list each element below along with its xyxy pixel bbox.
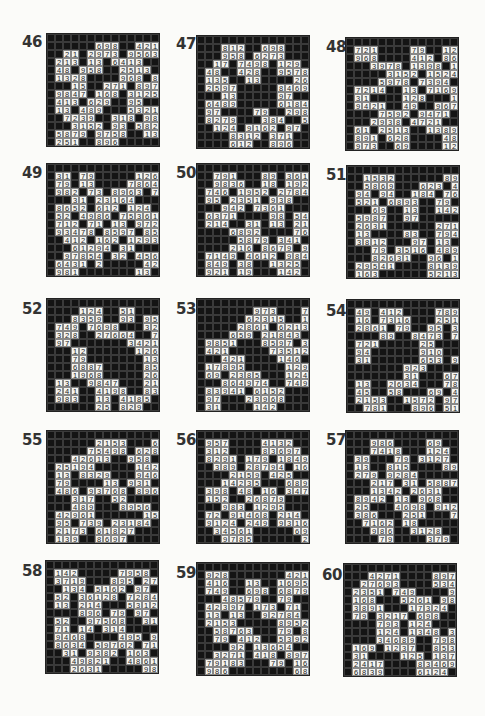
answer-cell[interactable]: 8 — [229, 132, 237, 140]
answer-cell[interactable]: 1 — [370, 487, 378, 495]
answer-cell[interactable]: 8 — [229, 595, 237, 603]
answer-cell[interactable]: 6 — [416, 596, 424, 604]
answer-cell[interactable]: 5 — [269, 339, 277, 347]
answer-cell[interactable]: 1 — [79, 260, 87, 268]
answer-cell[interactable]: 5 — [229, 52, 237, 60]
answer-cell[interactable]: 6 — [119, 331, 127, 339]
answer-cell[interactable]: 1 — [370, 46, 378, 54]
answer-cell[interactable]: 2 — [416, 620, 424, 628]
answer-cell[interactable]: 3 — [135, 58, 143, 66]
answer-cell[interactable]: 9 — [143, 114, 151, 122]
answer-cell[interactable]: 3 — [410, 527, 418, 535]
answer-cell[interactable]: 1 — [79, 244, 87, 252]
answer-cell[interactable]: 5 — [151, 228, 159, 236]
answer-cell[interactable]: 7 — [277, 132, 285, 140]
answer-cell[interactable]: 2 — [392, 644, 400, 652]
answer-cell[interactable]: 1 — [261, 487, 269, 495]
answer-cell[interactable]: 1 — [376, 604, 384, 612]
answer-cell[interactable]: 4 — [285, 355, 293, 363]
answer-cell[interactable]: 1 — [269, 220, 277, 228]
answer-cell[interactable]: 5 — [103, 403, 111, 411]
answer-cell[interactable]: 7 — [395, 324, 403, 332]
answer-cell[interactable]: 4 — [213, 188, 221, 196]
answer-cell[interactable]: 8 — [434, 62, 442, 70]
answer-cell[interactable]: 4 — [205, 603, 213, 611]
answer-cell[interactable]: 1 — [442, 46, 450, 54]
answer-cell[interactable]: 5 — [253, 371, 261, 379]
answer-cell[interactable]: 3 — [426, 487, 434, 495]
answer-cell[interactable]: 6 — [55, 260, 63, 268]
answer-cell[interactable]: 6 — [362, 54, 370, 62]
answer-cell[interactable]: 8 — [79, 363, 87, 371]
answer-cell[interactable]: 9 — [87, 379, 95, 387]
answer-cell[interactable]: 2 — [362, 46, 370, 54]
answer-cell[interactable]: 1 — [95, 236, 103, 244]
answer-cell[interactable]: 6 — [221, 579, 229, 587]
answer-cell[interactable]: 8 — [403, 230, 411, 238]
answer-cell[interactable]: 8 — [95, 66, 103, 74]
answer-cell[interactable]: 7 — [368, 580, 376, 588]
answer-cell[interactable]: 1 — [213, 220, 221, 228]
answer-cell[interactable]: 9 — [261, 108, 269, 116]
answer-cell[interactable]: 5 — [126, 577, 134, 585]
answer-cell[interactable]: 5 — [127, 212, 135, 220]
answer-cell[interactable]: 2 — [379, 254, 387, 262]
answer-cell[interactable]: 7 — [269, 52, 277, 60]
answer-cell[interactable]: 8 — [134, 657, 142, 665]
answer-cell[interactable]: 7 — [229, 84, 237, 92]
answer-cell[interactable]: 9 — [221, 172, 229, 180]
answer-cell[interactable]: 3 — [63, 106, 71, 114]
answer-cell[interactable]: 7 — [221, 212, 229, 220]
answer-cell[interactable]: 3 — [71, 58, 79, 66]
answer-cell[interactable]: 4 — [293, 455, 301, 463]
answer-cell[interactable]: 3 — [402, 126, 410, 134]
answer-cell[interactable]: 5 — [221, 619, 229, 627]
answer-cell[interactable]: 4 — [63, 387, 71, 395]
answer-cell[interactable]: 4 — [293, 487, 301, 495]
answer-cell[interactable]: 3 — [277, 220, 285, 228]
answer-cell[interactable]: 2 — [277, 511, 285, 519]
answer-cell[interactable]: 1 — [386, 447, 394, 455]
answer-cell[interactable]: 3 — [103, 395, 111, 403]
answer-cell[interactable]: 4 — [118, 625, 126, 633]
answer-cell[interactable]: 3 — [301, 339, 309, 347]
answer-cell[interactable]: 1 — [402, 519, 410, 527]
answer-cell[interactable]: 1 — [143, 511, 151, 519]
answer-cell[interactable]: 6 — [95, 323, 103, 331]
answer-cell[interactable]: 5 — [221, 76, 229, 84]
answer-cell[interactable]: 3 — [370, 142, 378, 150]
answer-cell[interactable]: 3 — [119, 220, 127, 228]
answer-cell[interactable]: 1 — [261, 387, 269, 395]
answer-cell[interactable]: 9 — [261, 455, 269, 463]
answer-cell[interactable]: 6 — [103, 212, 111, 220]
answer-cell[interactable]: 7 — [277, 611, 285, 619]
answer-cell[interactable]: 6 — [427, 388, 435, 396]
answer-cell[interactable]: 8 — [110, 577, 118, 585]
answer-cell[interactable]: 6 — [151, 252, 159, 260]
answer-cell[interactable]: 5 — [111, 495, 119, 503]
answer-cell[interactable]: 1 — [387, 262, 395, 270]
answer-cell[interactable]: 4 — [450, 70, 458, 78]
answer-cell[interactable]: 1 — [127, 236, 135, 244]
answer-cell[interactable]: 6 — [205, 100, 213, 108]
answer-cell[interactable]: 7 — [118, 569, 126, 577]
answer-cell[interactable]: 6 — [269, 487, 277, 495]
answer-cell[interactable]: 3 — [277, 52, 285, 60]
answer-cell[interactable]: 3 — [94, 649, 102, 657]
answer-cell[interactable]: 1 — [213, 619, 221, 627]
answer-cell[interactable]: 8 — [261, 495, 269, 503]
answer-cell[interactable]: 5 — [143, 252, 151, 260]
answer-cell[interactable]: 2 — [237, 479, 245, 487]
answer-cell[interactable]: 6 — [392, 636, 400, 644]
answer-cell[interactable]: 3 — [70, 585, 78, 593]
answer-cell[interactable]: 8 — [119, 387, 127, 395]
answer-cell[interactable]: 5 — [355, 198, 363, 206]
answer-cell[interactable]: 9 — [229, 511, 237, 519]
answer-cell[interactable]: 1 — [277, 204, 285, 212]
answer-cell[interactable]: 1 — [221, 479, 229, 487]
answer-cell[interactable]: 9 — [135, 471, 143, 479]
answer-cell[interactable]: 1 — [408, 628, 416, 636]
answer-cell[interactable]: 2 — [370, 479, 378, 487]
answer-cell[interactable]: 2 — [384, 612, 392, 620]
answer-cell[interactable]: 4 — [269, 471, 277, 479]
